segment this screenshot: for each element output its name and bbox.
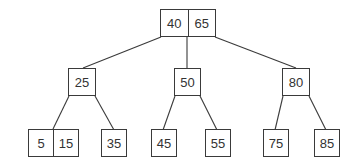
root-node: 40 65: [160, 9, 216, 37]
edge-25-35: [95, 96, 114, 130]
leaf-node-55: 55: [205, 129, 231, 157]
node-key: 85: [315, 130, 339, 156]
node-key: 25: [69, 69, 95, 95]
edge-80-85: [309, 96, 326, 130]
edge-50-55: [200, 96, 217, 130]
leaf-node-85: 85: [314, 129, 340, 157]
edge-root-25: [83, 37, 161, 68]
leaf-node-35: 35: [101, 129, 127, 157]
leaf-node-75: 75: [263, 129, 289, 157]
leaf-node-5-15: 5 15: [28, 129, 79, 157]
node-key: 15: [53, 130, 78, 156]
node-key: 80: [283, 69, 309, 95]
internal-node-25: 25: [68, 68, 96, 96]
node-key: 50: [175, 69, 200, 95]
edge-80-75: [275, 96, 283, 130]
node-key: 65: [188, 10, 216, 36]
node-key: 75: [264, 130, 288, 156]
leaf-node-45: 45: [151, 129, 177, 157]
node-key: 40: [161, 10, 188, 36]
internal-node-80: 80: [282, 68, 310, 96]
edge-root-80: [215, 37, 296, 68]
node-key: 5: [29, 130, 53, 156]
edge-25-5-15: [53, 96, 69, 129]
internal-node-50: 50: [174, 68, 201, 96]
edge-50-45: [163, 96, 175, 130]
node-key: 45: [152, 130, 176, 156]
node-key: 35: [102, 130, 126, 156]
node-key: 55: [206, 130, 230, 156]
